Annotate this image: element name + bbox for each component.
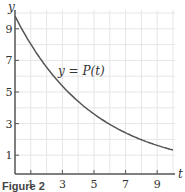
y-ticks: 13579 xyxy=(6,23,20,162)
svg-text:9: 9 xyxy=(6,23,13,36)
x-axis-label: t xyxy=(178,167,183,181)
svg-text:5: 5 xyxy=(91,178,98,191)
svg-text:5: 5 xyxy=(6,86,13,99)
figure-caption: Figure 2 xyxy=(2,180,45,192)
svg-text:7: 7 xyxy=(6,54,13,67)
chart: 13579 13579 y t y = P(t) xyxy=(0,0,185,192)
grid xyxy=(15,10,175,174)
curve-label: y = P(t) xyxy=(57,64,105,78)
svg-text:1: 1 xyxy=(6,149,13,162)
svg-text:9: 9 xyxy=(154,178,161,191)
svg-text:3: 3 xyxy=(59,178,66,191)
x-ticks: 13579 xyxy=(27,170,160,191)
svg-text:7: 7 xyxy=(122,178,129,191)
y-axis-label: y xyxy=(7,0,15,14)
svg-text:3: 3 xyxy=(6,118,13,131)
